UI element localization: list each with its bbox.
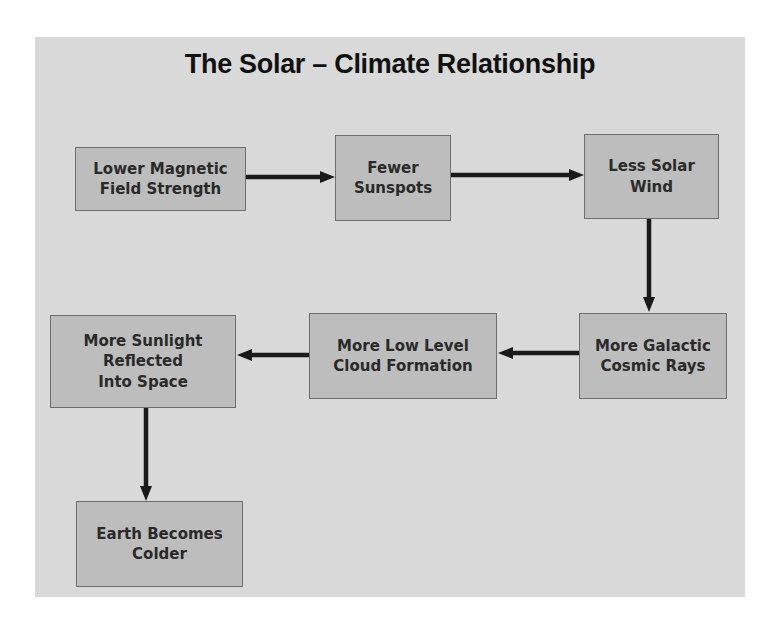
node-line: More Galactic — [595, 336, 711, 356]
node-lower-magnetic-field: Lower Magnetic Field Strength — [75, 147, 246, 211]
node-more-sunlight-reflected: More Sunlight Reflected Into Space — [50, 315, 236, 408]
node-more-cosmic-rays: More Galactic Cosmic Rays — [579, 313, 727, 399]
node-line: Into Space — [83, 372, 202, 392]
node-line: Less Solar — [608, 156, 695, 176]
node-line: More Low Level — [333, 336, 472, 356]
node-line: Cosmic Rays — [595, 356, 711, 376]
node-line: Fewer — [354, 158, 432, 178]
node-fewer-sunspots: Fewer Sunspots — [335, 135, 451, 221]
slide-title: The Solar – Climate Relationship — [35, 49, 745, 80]
node-earth-colder: Earth Becomes Colder — [76, 501, 243, 587]
node-line: Earth Becomes — [96, 524, 222, 544]
node-line: More Sunlight — [83, 331, 202, 351]
node-more-cloud-formation: More Low Level Cloud Formation — [309, 313, 497, 399]
node-line: Sunspots — [354, 178, 432, 198]
node-line: Colder — [96, 544, 222, 564]
node-line: Field Strength — [93, 179, 227, 199]
node-line: Cloud Formation — [333, 356, 472, 376]
node-line: Wind — [608, 177, 695, 197]
node-less-solar-wind: Less Solar Wind — [584, 134, 719, 219]
node-line: Reflected — [83, 351, 202, 371]
node-line: Lower Magnetic — [93, 159, 227, 179]
